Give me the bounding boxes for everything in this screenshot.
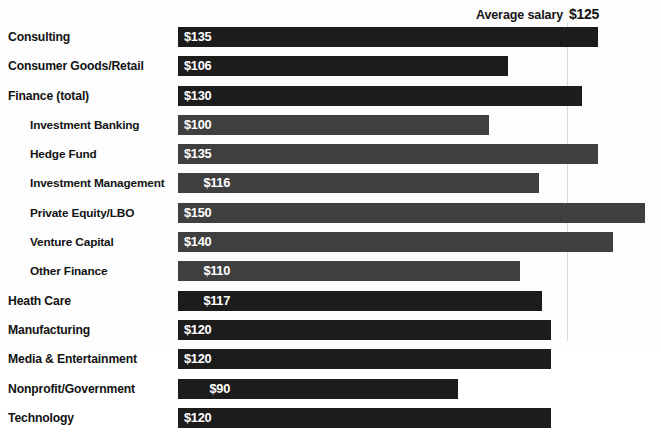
category-label: Hedge Fund	[30, 140, 97, 169]
bar-value-label: $117	[180, 291, 236, 311]
value-bar: $110	[178, 261, 520, 281]
bar-row: Consulting$135	[0, 23, 661, 52]
value-bar: $106	[178, 56, 508, 76]
chart-header: Average salary$125	[0, 5, 661, 23]
category-label: Manufacturing	[8, 316, 90, 345]
value-bar: $135	[178, 144, 598, 164]
value-bar: $150	[178, 203, 645, 223]
category-label: Investment Banking	[30, 111, 139, 140]
category-label: Venture Capital	[30, 228, 114, 257]
category-label: Finance (total)	[8, 82, 89, 111]
value-bar: $117	[178, 291, 542, 311]
bar-value-label: $135	[180, 27, 232, 47]
average-salary-value: $125	[569, 6, 599, 22]
bar-row: Manufacturing$120	[0, 316, 661, 345]
bar-value-label: $110	[180, 261, 236, 281]
bar-value-label: $106	[180, 56, 232, 76]
average-salary-annotation: Average salary$125	[476, 5, 599, 24]
value-bar: $140	[178, 232, 613, 252]
value-bar: $120	[178, 320, 551, 340]
category-label: Technology	[8, 404, 74, 432]
category-label: Media & Entertainment	[8, 345, 137, 374]
category-label: Consulting	[8, 23, 70, 52]
bar-value-label: $140	[180, 232, 232, 252]
bar-row: Media & Entertainment$120	[0, 345, 661, 374]
bar-value-label: $116	[180, 173, 236, 193]
bar-value-label: $130	[180, 86, 232, 106]
bar-row: Venture Capital$140	[0, 228, 661, 257]
bar-row: Investment Management$116	[0, 169, 661, 198]
bar-value-label: $90	[180, 379, 236, 399]
category-label: Private Equity/LBO	[30, 199, 134, 228]
bar-value-label: $100	[180, 115, 232, 135]
value-bar: $120	[178, 408, 551, 428]
bar-value-label: $120	[180, 320, 232, 340]
bar-row: Nonprofit/Government$90	[0, 375, 661, 404]
value-bar: $90	[178, 379, 458, 399]
bar-row: Other Finance$110	[0, 257, 661, 286]
bar-row: Technology$120	[0, 404, 661, 432]
category-label: Nonprofit/Government	[8, 375, 135, 404]
bar-value-label: $135	[180, 144, 232, 164]
category-label: Investment Management	[30, 169, 165, 198]
bar-row: Finance (total)$130	[0, 82, 661, 111]
bar-row: Heath Care$117	[0, 287, 661, 316]
bar-value-label: $120	[180, 349, 232, 369]
value-bar: $100	[178, 115, 489, 135]
category-label: Heath Care	[8, 287, 71, 316]
category-label: Consumer Goods/Retail	[8, 52, 144, 81]
value-bar: $120	[178, 349, 551, 369]
bar-row: Investment Banking$100	[0, 111, 661, 140]
value-bar: $130	[178, 86, 582, 106]
bar-value-label: $150	[180, 203, 232, 223]
bar-rows-container: Consulting$135Consumer Goods/Retail$106F…	[0, 23, 661, 432]
value-bar: $116	[178, 173, 539, 193]
bar-row: Private Equity/LBO$150	[0, 199, 661, 228]
bar-value-label: $120	[180, 408, 232, 428]
average-salary-label: Average salary	[476, 8, 563, 22]
category-label: Other Finance	[30, 257, 107, 286]
bar-row: Hedge Fund$135	[0, 140, 661, 169]
bar-row: Consumer Goods/Retail$106	[0, 52, 661, 81]
value-bar: $135	[178, 27, 598, 47]
